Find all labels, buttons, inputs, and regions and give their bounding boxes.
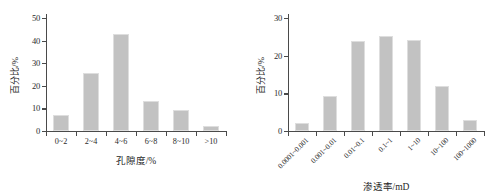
- x-axis-category-label: 2~4: [85, 137, 98, 146]
- x-axis-tick: [136, 132, 137, 136]
- x-axis-tick: [106, 132, 107, 136]
- y-axis-title: 百分比/%: [8, 19, 21, 132]
- y-axis-tick: [42, 18, 46, 19]
- x-axis-category-label: 0~2: [55, 137, 68, 146]
- bar: [407, 40, 421, 131]
- x-axis-category-label: >10: [205, 137, 218, 146]
- x-axis-tick: [76, 132, 77, 136]
- x-axis-category-label: 4~6: [115, 137, 128, 146]
- x-axis-tick: [484, 132, 485, 136]
- y-axis-tick: [42, 108, 46, 109]
- two-panel-histogram-figure: 01020304050百分比/%0~22~44~66~88~10>10孔隙度/%…: [0, 0, 504, 191]
- x-axis-tick: [46, 132, 47, 136]
- bar: [295, 123, 309, 131]
- bar: [351, 41, 365, 131]
- bar: [203, 126, 219, 131]
- bar: [53, 115, 69, 131]
- porosity-plot-area: 01020304050百分比/%0~22~44~66~88~10>10孔隙度/%: [46, 18, 226, 131]
- x-axis-category-label: 0.0001~0.001: [276, 136, 310, 170]
- x-axis-category-label: 0.01~0.1: [342, 136, 366, 160]
- bar: [173, 110, 189, 131]
- x-axis-tick: [428, 132, 429, 136]
- y-axis-tick: [284, 18, 288, 19]
- y-axis-title: 百分比/%: [254, 19, 267, 132]
- x-axis-tick: [316, 132, 317, 136]
- x-axis-tick: [166, 132, 167, 136]
- bar: [113, 34, 129, 131]
- bar: [323, 96, 337, 131]
- x-axis-title: 渗透率/mD: [288, 179, 484, 191]
- y-axis-line: [288, 14, 289, 131]
- x-axis-category-label: 6~8: [145, 137, 158, 146]
- x-axis-tick: [226, 132, 227, 136]
- bar: [83, 73, 99, 131]
- bar: [379, 36, 393, 131]
- x-axis-category-label: 0.001~0.01: [309, 136, 338, 165]
- x-axis-category-label: 10~100: [428, 136, 450, 158]
- x-axis-category-label: 100~1000: [451, 136, 478, 163]
- x-axis-tick: [400, 132, 401, 136]
- x-axis-tick: [344, 132, 345, 136]
- y-axis-tick: [42, 41, 46, 42]
- x-axis-category-label: 0.1~1: [376, 136, 394, 154]
- y-axis-tick: [284, 93, 288, 94]
- x-axis-tick: [196, 132, 197, 136]
- x-axis-tick: [456, 132, 457, 136]
- y-axis-tick: [284, 56, 288, 57]
- bar: [463, 120, 477, 131]
- y-axis-line: [46, 14, 47, 131]
- permeability-histogram-panel: 0102030百分比/%0.0001~0.0010.001~0.010.01~0…: [252, 0, 504, 191]
- y-axis-tick: [42, 86, 46, 87]
- porosity-histogram-panel: 01020304050百分比/%0~22~44~66~88~10>10孔隙度/%: [0, 0, 252, 191]
- x-axis-title: 孔隙度/%: [46, 153, 226, 167]
- x-axis-tick: [288, 132, 289, 136]
- permeability-plot-area: 0102030百分比/%0.0001~0.0010.001~0.010.01~0…: [288, 18, 484, 131]
- y-axis-tick: [42, 63, 46, 64]
- x-axis-category-label: 8~10: [173, 137, 190, 146]
- x-axis-category-label: 1~10: [405, 136, 422, 153]
- x-axis-tick: [372, 132, 373, 136]
- bar: [435, 86, 449, 131]
- bar: [143, 101, 159, 132]
